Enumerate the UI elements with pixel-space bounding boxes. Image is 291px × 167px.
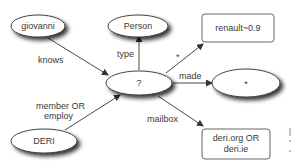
edge-star-label: * <box>176 52 180 62</box>
node-deriorg-label-1: deri.org OR <box>202 133 270 143</box>
node-deri-label: DERI <box>11 136 77 146</box>
node-center-label: ? <box>106 78 172 88</box>
node-giovanni-label: giovanni <box>11 21 65 31</box>
edge-type-label: type <box>117 49 134 59</box>
node-star-label: * <box>212 79 280 89</box>
edge-mailbox-label: mailbox <box>147 114 178 124</box>
node-deriorg-label-2: deri.ie <box>202 144 270 154</box>
node-person-label: Person <box>108 21 168 31</box>
edge-made-label: made <box>179 71 202 81</box>
edge-member-label-2: employ <box>44 111 73 121</box>
edge-member-label-1: member OR <box>36 101 85 111</box>
edge-star <box>166 44 203 73</box>
edge-knows-label: knows <box>38 55 64 65</box>
node-renault-label: renault~0.9 <box>202 23 274 33</box>
